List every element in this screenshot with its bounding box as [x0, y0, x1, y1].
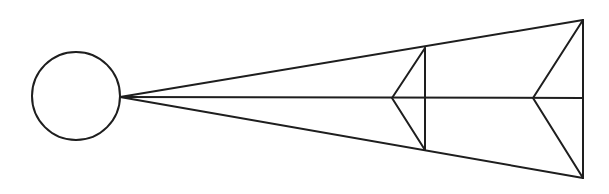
top-ray-line [120, 20, 583, 97]
far-plane-chevron [533, 20, 583, 178]
center-ray-line [120, 97, 583, 98]
eye-circle [32, 52, 120, 140]
near-plane-chevron [392, 48, 425, 150]
bottom-ray-line [120, 97, 583, 178]
diagram-svg [0, 0, 609, 194]
projection-diagram [0, 0, 609, 194]
